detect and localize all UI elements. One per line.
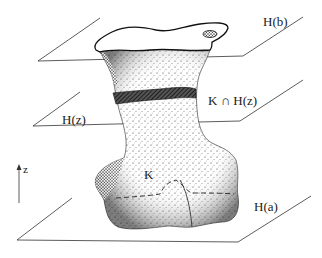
- label-body-k: K: [144, 168, 153, 181]
- body-k: [95, 49, 238, 229]
- label-z-axis: z: [23, 164, 28, 175]
- slicing-diagram: [0, 0, 322, 258]
- top-cap-notch: [203, 31, 217, 38]
- label-section: K ∩ H(z): [208, 94, 257, 107]
- z-axis-arrow: [17, 164, 22, 203]
- label-h-z: H(z): [62, 113, 86, 126]
- label-h-b: H(b): [263, 15, 288, 28]
- label-h-a: H(a): [254, 200, 278, 213]
